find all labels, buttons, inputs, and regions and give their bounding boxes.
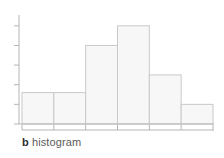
histogram-bar xyxy=(118,26,150,124)
caption-text: histogram xyxy=(32,136,81,148)
histogram-chart xyxy=(0,0,224,134)
histogram-bar xyxy=(181,104,213,124)
figure-caption: b histogram xyxy=(22,136,81,148)
plot-area xyxy=(0,0,224,134)
histogram-figure: b histogram xyxy=(0,0,224,158)
histogram-bar xyxy=(22,93,54,124)
histogram-bar xyxy=(149,75,181,124)
histogram-bar xyxy=(54,93,86,124)
caption-letter: b xyxy=(22,136,29,148)
histogram-bar xyxy=(86,45,118,124)
